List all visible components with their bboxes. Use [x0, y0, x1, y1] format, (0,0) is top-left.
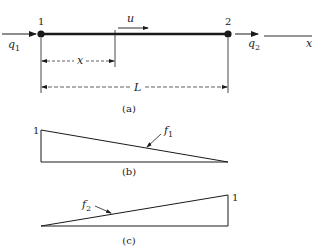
- panel-c-caption: (c): [122, 235, 136, 246]
- bar-element-diagram: 1 2 q1 q2 u x L x (a) 1 f1 (b) 1 f2 (c): [0, 0, 322, 251]
- f2-height-label: 1: [232, 192, 238, 203]
- node-2-label: 2: [225, 16, 231, 27]
- f2-triangle: [41, 195, 228, 226]
- u-label: u: [127, 12, 134, 25]
- f2-leader-arrow: [95, 206, 111, 213]
- panel-a-bar-element: 1 2 q1 q2 u x L x (a): [2, 12, 313, 114]
- node-2-dot: [224, 30, 231, 37]
- panel-a-caption: (a): [122, 103, 136, 114]
- f1-leader-arrow: [147, 134, 161, 147]
- x-dimension-label: x: [77, 54, 84, 67]
- f2-label: f2: [81, 198, 91, 213]
- q1-label: q1: [8, 38, 20, 53]
- f1-height-label: 1: [33, 125, 39, 136]
- panel-c-shape-function-f2: 1 f2 (c): [41, 192, 238, 246]
- panel-b-shape-function-f1: 1 f1 (b): [33, 124, 228, 177]
- f1-label: f1: [163, 124, 173, 139]
- x-axis-label: x: [306, 37, 313, 50]
- node-1-dot: [37, 30, 44, 37]
- node-1-label: 1: [38, 16, 44, 27]
- L-dimension-label: L: [133, 81, 141, 94]
- panel-b-caption: (b): [122, 166, 136, 177]
- q2-label: q2: [248, 37, 260, 52]
- f1-triangle: [41, 130, 228, 162]
